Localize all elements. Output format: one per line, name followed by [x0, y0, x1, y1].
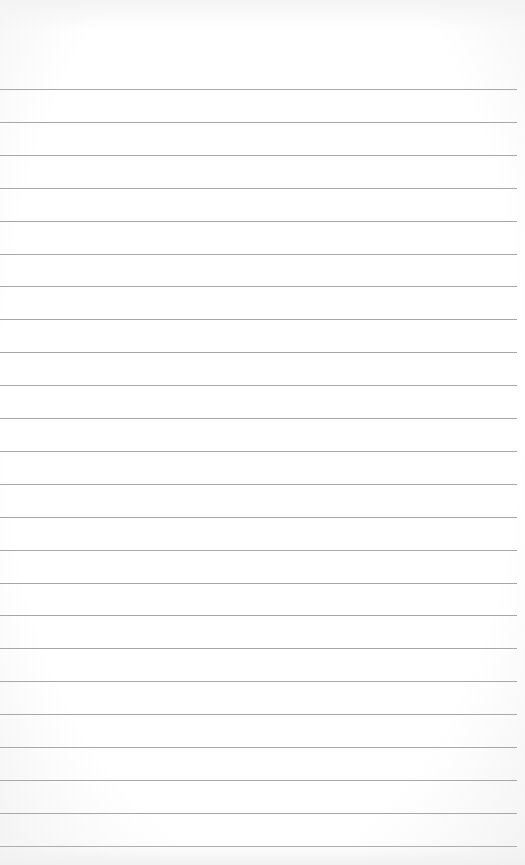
ruled-line [0, 517, 517, 518]
ruled-line [0, 319, 517, 320]
ruled-line [0, 122, 517, 123]
ruled-line [0, 648, 517, 649]
ruled-line [0, 418, 517, 419]
ruled-line [0, 550, 517, 551]
ruled-line [0, 451, 517, 452]
ruled-line [0, 846, 517, 847]
ruled-line [0, 385, 517, 386]
ruled-line [0, 155, 517, 156]
ruled-line [0, 254, 517, 255]
ruled-line [0, 780, 517, 781]
ruled-line [0, 747, 517, 748]
ruled-line [0, 714, 517, 715]
lined-paper [0, 0, 525, 865]
ruled-line [0, 352, 517, 353]
ruled-line [0, 681, 517, 682]
ruled-line [0, 221, 517, 222]
ruled-line [0, 89, 517, 90]
ruled-line [0, 615, 517, 616]
ruled-line [0, 583, 517, 584]
ruled-line [0, 188, 517, 189]
ruled-line [0, 484, 517, 485]
ruled-line [0, 813, 517, 814]
ruled-line [0, 286, 517, 287]
